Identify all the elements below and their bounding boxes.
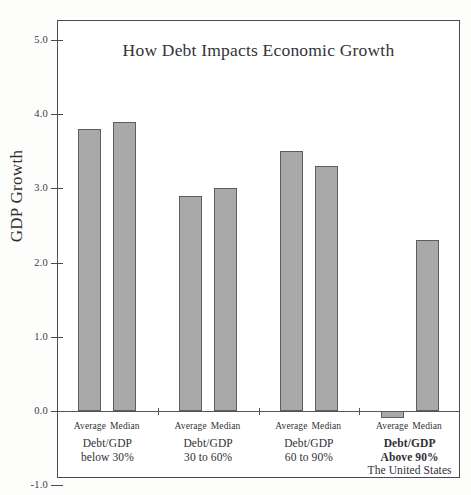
y-axis-tick-mark [51,485,63,486]
y-axis-tick-label: 0.0 [14,405,48,416]
y-axis-label: GDP Growth [7,131,27,261]
bar [280,151,303,411]
x-axis-group-separator [259,408,260,415]
bar-chart-figure: GDP Growth How Debt Impacts Economic Gro… [0,0,471,495]
y-axis-tick-mark [51,337,63,338]
bar [179,196,202,411]
bar-series-label: Median [102,421,148,431]
y-axis-tick-label: 5.0 [14,34,48,45]
y-axis-tick-label: 4.0 [14,108,48,119]
chart-title: How Debt Impacts Economic Growth [57,40,460,61]
bar [78,129,101,411]
group-category-line1: Debt/GDP [350,436,470,450]
y-axis-tick-label: -1.0 [14,479,48,490]
y-axis-tick-label: 3.0 [14,182,48,193]
group-category-label: Debt/GDPAbove 90% [350,436,470,464]
y-axis-tick-mark [51,114,63,115]
bar [113,122,136,411]
x-axis-group-separator [359,408,360,415]
bar [214,188,237,411]
y-axis-tick-mark [51,188,63,189]
x-axis-group-separator [158,408,159,415]
bar-series-label: Median [203,421,249,431]
bar [416,240,439,411]
y-axis-tick-mark [51,263,63,264]
group-category-line2: Above 90% [350,450,470,464]
group-annotation: The United States [345,464,471,476]
y-axis-tick-mark [51,40,63,41]
bar-series-label: Median [303,421,349,431]
y-axis-tick-label: 2.0 [14,257,48,268]
y-axis-tick-label: 1.0 [14,331,48,342]
bar [315,166,338,411]
bar-series-label: Median [404,421,450,431]
bar [381,411,404,418]
